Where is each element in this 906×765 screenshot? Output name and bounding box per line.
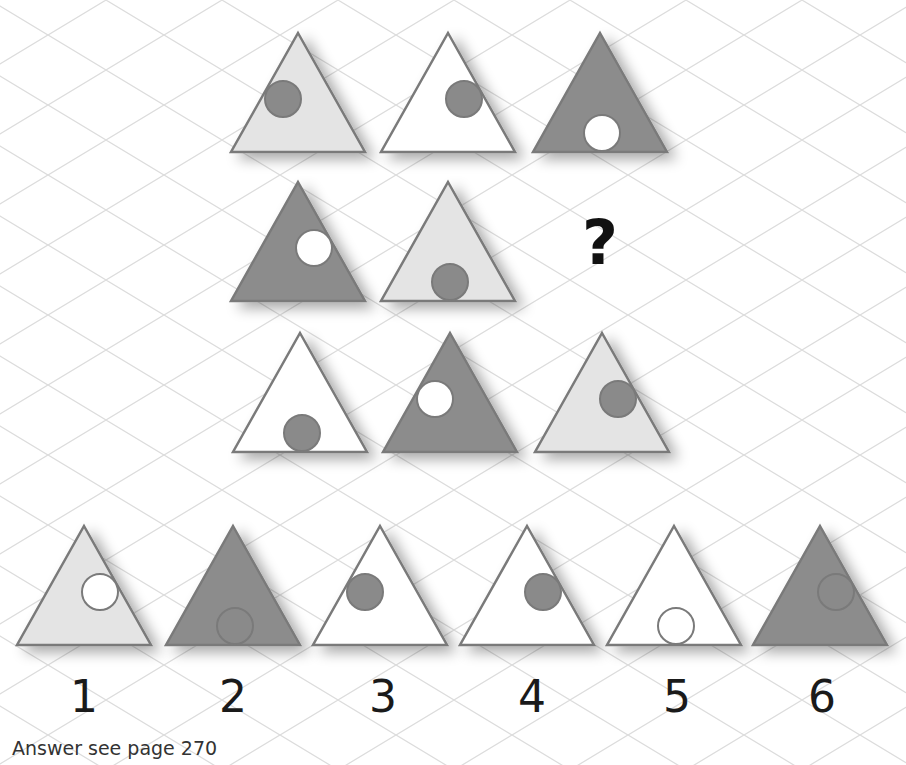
option-label-3: 3 xyxy=(369,675,397,719)
circle-dark-bottom xyxy=(217,608,253,644)
circle-white-left xyxy=(417,381,453,417)
option-label-1: 1 xyxy=(70,675,98,719)
circle-white-right xyxy=(296,230,332,266)
puzzle-canvas xyxy=(0,0,906,765)
circle-dark-bottom xyxy=(432,264,468,300)
option-label-5: 5 xyxy=(663,675,691,719)
puzzle-page: ? 1 2 3 4 5 6 Answer see page 270 xyxy=(0,0,906,765)
circle-dark-right xyxy=(600,381,636,417)
circle-white-bottom xyxy=(584,115,620,151)
circle-dark-left xyxy=(347,574,383,610)
option-label-6: 6 xyxy=(808,675,836,719)
circle-dark-right xyxy=(818,574,854,610)
circle-dark-left xyxy=(265,81,301,117)
circle-dark-right xyxy=(446,81,482,117)
circle-dark-bottom xyxy=(284,415,320,451)
circle-white-right xyxy=(82,574,118,610)
option-label-4: 4 xyxy=(518,675,546,719)
answer-reference: Answer see page 270 xyxy=(12,737,217,759)
circle-white-bottom xyxy=(658,608,694,644)
missing-piece-question-mark: ? xyxy=(582,212,618,274)
option-label-2: 2 xyxy=(219,675,247,719)
circle-dark-right xyxy=(525,574,561,610)
